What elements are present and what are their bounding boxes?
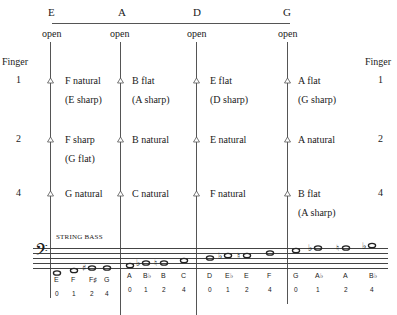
staff-note-label: F xyxy=(71,276,75,283)
staff-finger-number: 4 xyxy=(370,286,374,293)
staff-note-label: E♭ xyxy=(225,272,233,280)
staff-note-label: A xyxy=(343,272,348,279)
whole-note xyxy=(103,266,110,270)
whole-note xyxy=(368,243,375,247)
whole-note xyxy=(224,253,231,257)
flat-icon: ♭ xyxy=(218,251,222,261)
staff-finger-number: 2 xyxy=(162,286,166,293)
flat-icon: ♭ xyxy=(362,241,366,251)
staff-finger-number: 0 xyxy=(128,286,132,293)
staff-note-label: B♭ xyxy=(369,272,377,280)
staff-finger-number: 1 xyxy=(72,290,76,297)
staff-finger-number: 2 xyxy=(245,286,249,293)
staff-finger-number: 0 xyxy=(208,286,212,293)
whole-note xyxy=(126,263,133,267)
staff-note-label: A♭ xyxy=(315,272,323,280)
staff-finger-number: 0 xyxy=(294,286,298,293)
staff-finger-number: 1 xyxy=(226,286,230,293)
staff-finger-number: 4 xyxy=(268,286,272,293)
whole-note xyxy=(70,268,77,272)
whole-note xyxy=(180,258,187,262)
staff-note-label: F♯ xyxy=(89,276,97,283)
flat-icon: ♭ xyxy=(136,258,140,268)
whole-note xyxy=(142,261,149,265)
staff-finger-number: 4 xyxy=(105,290,109,297)
whole-note xyxy=(266,251,273,255)
staff-finger-number: 2 xyxy=(344,286,348,293)
staff-note-label: C xyxy=(181,272,186,279)
staff-finger-number: 1 xyxy=(316,286,320,293)
staff-finger-number: 1 xyxy=(144,286,148,293)
staff-finger-number: 2 xyxy=(90,290,94,297)
sharp-icon: ♯ xyxy=(82,263,86,273)
whole-note xyxy=(160,261,167,265)
whole-note xyxy=(53,271,60,275)
staff-note-label: E xyxy=(244,272,249,279)
staff-note-label: G xyxy=(104,276,109,283)
staff-note-label: B♭ xyxy=(143,272,151,280)
staff-note-label: E xyxy=(54,276,59,283)
natural-icon: ♮ xyxy=(154,258,157,268)
whole-note xyxy=(243,253,250,257)
staff-note-label: F xyxy=(267,272,271,279)
whole-note xyxy=(342,246,349,250)
whole-note xyxy=(314,246,321,250)
staff-finger-number: 0 xyxy=(55,290,59,297)
staff-note-label: G xyxy=(293,272,298,279)
staff-note-label: A xyxy=(127,272,132,279)
natural-icon: ♮ xyxy=(237,251,240,261)
whole-note xyxy=(206,256,213,260)
staff-note-label: D xyxy=(207,272,212,279)
whole-note xyxy=(88,266,95,270)
whole-note xyxy=(292,248,299,252)
natural-icon: ♮ xyxy=(336,243,339,253)
staff-note-label: B xyxy=(161,272,166,279)
flat-icon: ♭ xyxy=(308,243,312,253)
staff-finger-number: 4 xyxy=(182,286,186,293)
